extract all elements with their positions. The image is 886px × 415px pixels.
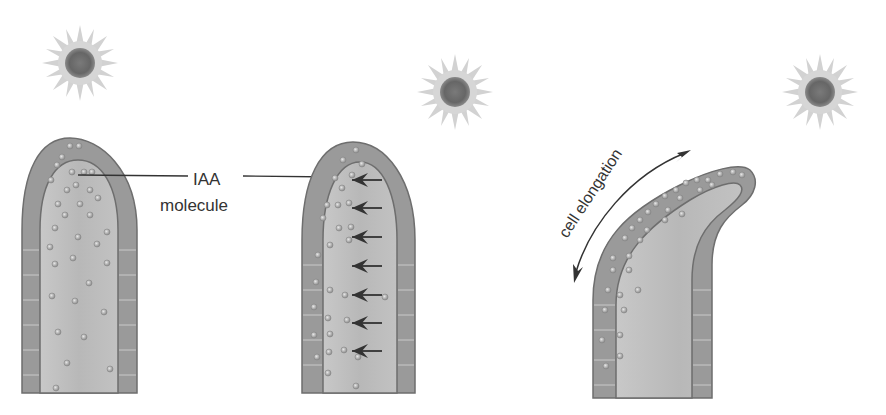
shoot-panel-1 <box>22 138 137 393</box>
shoot-panel-2 <box>302 142 415 393</box>
iaa-label: IAA <box>193 170 220 190</box>
sun-icon <box>417 54 493 130</box>
cell-elongation-label: cell elongation <box>555 146 625 241</box>
sun-icon <box>782 54 858 130</box>
phototropism-diagram: cell elongation <box>0 0 886 415</box>
shoot-panel-3: cell elongation <box>555 146 755 398</box>
sun-icon <box>42 25 118 101</box>
molecule-label: molecule <box>160 196 228 216</box>
